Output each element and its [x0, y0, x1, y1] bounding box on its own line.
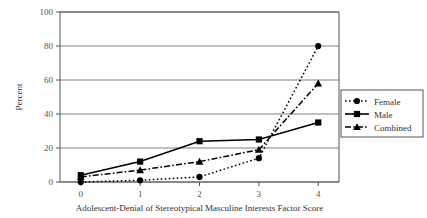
x-tick-label-0: 0 [79, 189, 84, 199]
x-tick-label-4: 4 [316, 189, 321, 199]
datapoint-female-x2 [196, 174, 202, 180]
x-tick-label-1: 1 [138, 189, 143, 199]
datapoint-female-x1 [137, 177, 143, 183]
legend-marker-male [354, 111, 360, 117]
y-tick-label-80: 80 [44, 41, 54, 51]
legend-label-male: Male [374, 110, 393, 120]
datapoint-male-x3 [256, 136, 262, 142]
legend-marker-female [354, 98, 360, 104]
x-axis-title: Adolescent-Denial of Stereotypical Mascu… [76, 203, 323, 213]
chart-legend: FemaleMaleCombined [341, 90, 423, 137]
datapoint-female-x4 [315, 43, 321, 49]
x-tick-label-2: 2 [197, 189, 202, 199]
y-tick-label-100: 100 [40, 7, 54, 17]
chart-figure: 020406080100 01234 Percent Adolescent-De… [0, 0, 427, 218]
y-axis-title: Percent [14, 83, 24, 110]
y-tick-label-60: 60 [44, 75, 54, 85]
legend-label-combined: Combined [374, 123, 412, 133]
legend-label-female: Female [374, 97, 401, 107]
datapoint-female-x3 [256, 155, 262, 161]
datapoint-male-x4 [315, 119, 321, 125]
datapoint-male-x1 [137, 159, 143, 165]
y-tick-label-20: 20 [44, 143, 54, 153]
y-tick-label-0: 0 [49, 177, 54, 187]
datapoint-male-x2 [196, 138, 202, 144]
line-chart: 020406080100 01234 Percent Adolescent-De… [0, 0, 427, 218]
x-tick-label-3: 3 [257, 189, 262, 199]
y-tick-label-40: 40 [44, 109, 54, 119]
